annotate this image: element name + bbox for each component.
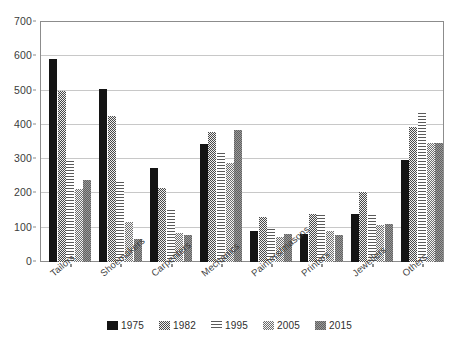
x-axis: TailorsShoemakersCarpentersMechanicsPain…	[41, 264, 443, 314]
y-axis-tick-label: 0	[26, 255, 32, 267]
y-axis-tick-mark	[33, 226, 36, 227]
bar-group	[343, 22, 393, 262]
y-axis-tick-label: 300	[14, 152, 32, 164]
bar-carpenters-1982	[158, 188, 166, 262]
legend-item-1982[interactable]: 1982	[159, 320, 196, 331]
legend-swatch-icon	[263, 321, 274, 330]
y-axis-tick-label: 100	[14, 221, 32, 233]
bar-chart-figure: 0100200300400500600700 TailorsShoemakers…	[0, 0, 459, 359]
bar-tailors-2005	[75, 189, 83, 262]
bar-others-1975	[401, 160, 409, 263]
bar-mechanics-1995	[217, 153, 225, 262]
legend-swatch-icon	[211, 321, 222, 330]
bar-shoemakers-1975	[99, 89, 107, 262]
legend-label: 2015	[329, 320, 352, 331]
bar-group	[41, 22, 91, 262]
legend-label: 1975	[121, 320, 144, 331]
legend-swatch-icon	[107, 321, 118, 330]
y-axis-tick-label: 400	[14, 118, 32, 130]
chart-legend: 19751982199520052015	[0, 320, 459, 331]
y-axis-tick-mark	[33, 89, 36, 90]
bar-tailors-2015	[83, 180, 91, 262]
y-axis-tick-label: 500	[14, 84, 32, 96]
bar-jewellers-1982	[359, 192, 367, 262]
bar-tailors-1995	[66, 161, 74, 262]
bar-others-1995	[418, 113, 426, 262]
bar-jewellers-1975	[351, 214, 359, 262]
y-axis-tick-mark	[33, 192, 36, 193]
legend-item-1975[interactable]: 1975	[107, 320, 144, 331]
legend-swatch-icon	[315, 321, 326, 330]
legend-swatch-icon	[159, 321, 170, 330]
bar-jewellers-2015	[385, 224, 393, 262]
legend-item-1995[interactable]: 1995	[211, 320, 248, 331]
bar-mechanics-1975	[200, 144, 208, 262]
y-axis-tick-mark	[33, 55, 36, 56]
legend-item-2005[interactable]: 2005	[263, 320, 300, 331]
bar-group	[91, 22, 141, 262]
bar-printers-2015	[335, 235, 343, 262]
bar-carpenters-1975	[150, 168, 158, 262]
legend-label: 1995	[225, 320, 248, 331]
bar-group	[242, 22, 292, 262]
bar-others-1982	[409, 127, 417, 262]
bar-others-2005	[427, 143, 435, 262]
bar-others-2015	[435, 143, 443, 262]
y-axis-tick-mark	[33, 158, 36, 159]
bar-group	[393, 22, 443, 262]
legend-label: 2005	[277, 320, 300, 331]
y-axis-tick-label: 700	[14, 15, 32, 27]
bar-tailors-1982	[58, 91, 66, 262]
bar-group	[142, 22, 192, 262]
y-axis: 0100200300400500600700	[0, 21, 36, 262]
bar-mechanics-1982	[208, 132, 216, 262]
bar-shoemakers-1982	[108, 116, 116, 262]
bar-painters-masons-1975	[250, 231, 258, 262]
legend-label: 1982	[173, 320, 196, 331]
y-axis-tick-label: 600	[14, 49, 32, 61]
bar-tailors-1975	[49, 59, 57, 262]
y-axis-tick-mark	[33, 261, 36, 262]
bars-layer	[41, 22, 443, 262]
y-axis-tick-mark	[33, 21, 36, 22]
legend-item-2015[interactable]: 2015	[315, 320, 352, 331]
bar-group	[192, 22, 242, 262]
y-axis-tick-mark	[33, 123, 36, 124]
y-axis-tick-label: 200	[14, 186, 32, 198]
